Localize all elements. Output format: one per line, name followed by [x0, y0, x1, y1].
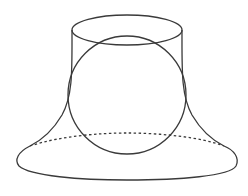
left-side-curve	[30, 30, 72, 146]
bottom-ellipse-back-dashed	[30, 133, 224, 146]
right-side-curve	[182, 30, 224, 146]
inscribed-sphere	[68, 36, 186, 154]
solid-of-revolution-diagram	[0, 0, 248, 196]
bottom-ellipse-front	[17, 146, 237, 180]
top-ellipse	[72, 15, 182, 45]
